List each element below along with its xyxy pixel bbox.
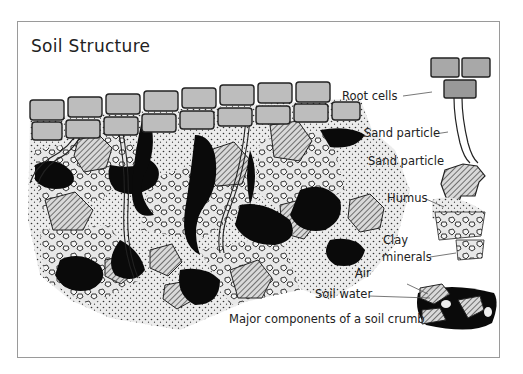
soil-crumb-components: [417, 58, 497, 330]
label-sand-particle-2: Sand particle: [368, 154, 444, 168]
label-air: Air: [355, 266, 371, 280]
label-humus: Humus: [387, 191, 427, 205]
label-sand-particle-1: Sand particle: [364, 126, 440, 140]
label-soil-water: Soil water: [315, 287, 372, 301]
caption: Major components of a soil crumb: [229, 312, 425, 326]
label-clay-line2: minerals: [382, 250, 432, 264]
label-clay-line1: Clay: [383, 233, 408, 247]
diagram-title: Soil Structure: [31, 36, 150, 56]
label-root-cells: Root cells: [342, 89, 398, 103]
